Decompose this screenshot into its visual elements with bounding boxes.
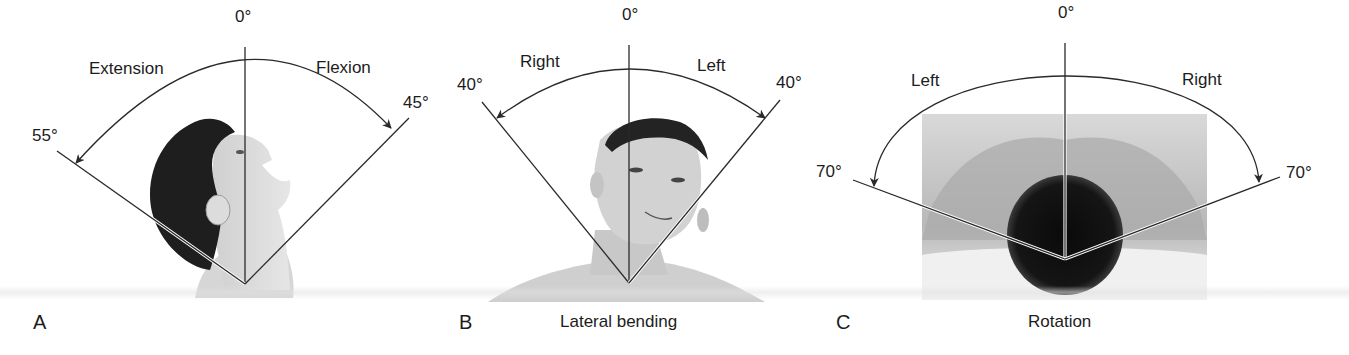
cervical-range-of-motion-figure: 0° Extension Flexion 55° 45° A 0° Right … xyxy=(0,0,1349,355)
panel-c-zero-degree-label: 0° xyxy=(1058,4,1074,21)
panel-b-photo xyxy=(488,118,765,302)
panel-c-letter: C xyxy=(836,312,850,332)
panel-b-caption: Lateral bending xyxy=(560,313,677,330)
panel-c-left-angle-label: 70° xyxy=(816,163,842,180)
panel-c-right-angle-label: 70° xyxy=(1286,164,1312,181)
panel-b-left-label: Left xyxy=(697,57,725,74)
photo-base-fade-band xyxy=(0,286,1349,300)
panel-a-zero-degree-label: 0° xyxy=(235,8,251,25)
panel-b-letter: B xyxy=(459,312,472,332)
panel-a-flexion-label: Flexion xyxy=(316,59,371,76)
panel-b-right-angle-label: 40° xyxy=(457,76,483,93)
panel-a-extension-label: Extension xyxy=(89,60,164,77)
panel-c-caption: Rotation xyxy=(1028,313,1091,330)
panel-c-right-label: Right xyxy=(1182,71,1222,88)
panel-b-left-angle-label: 40° xyxy=(776,74,802,91)
panel-b-arc-arrow xyxy=(497,69,765,118)
panel-b-zero-degree-label: 0° xyxy=(622,6,638,23)
panel-c-left-label: Left xyxy=(911,72,939,89)
panel-b xyxy=(482,45,780,302)
panel-a-flexion-angle-label: 45° xyxy=(403,94,429,111)
panel-a-letter: A xyxy=(33,312,46,332)
panel-a xyxy=(57,47,409,298)
panel-a-photo xyxy=(150,119,294,298)
panel-b-right-label: Right xyxy=(520,53,560,70)
panel-a-extension-angle-label: 55° xyxy=(32,127,58,144)
